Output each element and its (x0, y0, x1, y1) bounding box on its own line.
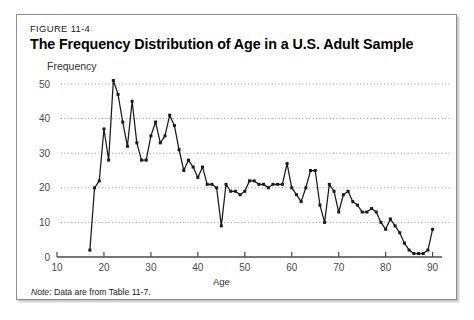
data-point-marker (281, 183, 284, 186)
data-point-marker (196, 176, 199, 179)
data-point-marker (225, 183, 228, 186)
data-point-marker (107, 159, 110, 162)
data-point-marker (379, 221, 382, 224)
data-point-marker (389, 217, 392, 220)
x-tick-label: 40 (192, 262, 204, 273)
data-point-marker (206, 183, 209, 186)
data-point-marker (267, 186, 270, 189)
data-point-marker (356, 204, 359, 207)
data-point-marker (257, 183, 260, 186)
data-point-marker (229, 190, 232, 193)
x-tick-label: 10 (51, 262, 63, 273)
data-point-marker (375, 211, 378, 214)
data-point-marker (126, 145, 129, 148)
data-point-marker (333, 190, 336, 193)
y-tick-label: 0 (44, 252, 50, 263)
data-point-marker (318, 204, 321, 207)
data-point-marker (140, 159, 143, 162)
data-point-marker (314, 169, 317, 172)
data-point-marker (286, 162, 289, 165)
y-tick-label: 50 (39, 79, 51, 90)
data-point-marker (187, 159, 190, 162)
data-point-marker (422, 252, 425, 255)
data-point-marker (328, 183, 331, 186)
x-axis-title: Age (213, 276, 230, 287)
data-point-marker (112, 79, 115, 82)
data-point-marker (173, 124, 176, 127)
y-tick-labels: 01020304050 (39, 79, 51, 263)
data-point-marker (163, 134, 166, 137)
data-point-marker (102, 127, 105, 130)
data-point-marker (351, 200, 354, 203)
data-point-marker (239, 193, 242, 196)
y-tick-label: 40 (39, 113, 51, 124)
data-point-marker (365, 211, 368, 214)
data-point-marker (253, 179, 256, 182)
data-point-marker (417, 252, 420, 255)
figure-note: Note: Data are from Table 11-7. (31, 287, 151, 297)
data-point-marker (309, 169, 312, 172)
data-point-marker (370, 207, 373, 210)
data-point-marker (135, 141, 138, 144)
x-tick-label: 90 (427, 262, 439, 273)
data-point-marker (426, 249, 429, 252)
data-point-marker (131, 100, 134, 103)
data-point-marker (408, 249, 411, 252)
data-point-marker (248, 179, 251, 182)
data-point-marker (117, 93, 120, 96)
data-point-marker (192, 166, 195, 169)
data-point-marker (304, 186, 307, 189)
note-label: Note: (31, 287, 52, 297)
data-point-marker (182, 169, 185, 172)
data-point-marker (403, 242, 406, 245)
data-point-marker (347, 190, 350, 193)
data-point-marker (398, 231, 401, 234)
y-tick-label: 20 (39, 182, 51, 193)
x-tick-label: 20 (98, 262, 110, 273)
data-point-marker (145, 159, 148, 162)
y-tick-label: 10 (39, 217, 51, 228)
figure-page: FIGURE 11-4 The Frequency Distribution o… (0, 0, 474, 320)
data-point-marker (168, 114, 171, 117)
data-point-marker (210, 183, 213, 186)
x-tick-label: 80 (380, 262, 392, 273)
data-point-marker (384, 228, 387, 231)
data-point-marker (201, 166, 204, 169)
data-point-marker (243, 190, 246, 193)
data-point-marker (121, 121, 124, 124)
data-point-marker (88, 249, 91, 252)
data-point-marker (271, 183, 274, 186)
data-point-marker (323, 221, 326, 224)
data-point-marker (431, 228, 434, 231)
data-point-marker (412, 252, 415, 255)
x-tick-labels: 102030405060708090 (51, 262, 438, 273)
data-point-marker (262, 183, 265, 186)
data-point-marker (300, 200, 303, 203)
data-point-marker (154, 121, 157, 124)
data-point-marker (215, 186, 218, 189)
data-point-markers (88, 79, 434, 255)
data-point-marker (98, 179, 101, 182)
frequency-line-chart: 01020304050 102030405060708090 (17, 15, 458, 301)
data-series-line (90, 81, 433, 254)
data-point-marker (290, 186, 293, 189)
data-point-marker (295, 193, 298, 196)
data-point-marker (234, 190, 237, 193)
data-point-marker (178, 148, 181, 151)
note-text: Data are from Table 11-7. (52, 287, 151, 297)
x-tick-label: 60 (286, 262, 298, 273)
data-point-marker (149, 134, 152, 137)
x-tick-label: 50 (239, 262, 251, 273)
plot-area: 01020304050 102030405060708090 (17, 15, 458, 301)
data-point-marker (337, 211, 340, 214)
data-point-marker (276, 183, 279, 186)
y-tick-label: 30 (39, 148, 51, 159)
figure-box: FIGURE 11-4 The Frequency Distribution o… (16, 14, 457, 300)
data-point-marker (394, 224, 397, 227)
x-tick-label: 70 (333, 262, 345, 273)
data-point-marker (361, 211, 364, 214)
data-point-marker (342, 193, 345, 196)
data-point-marker (93, 186, 96, 189)
x-tick-label: 30 (145, 262, 157, 273)
data-point-marker (159, 141, 162, 144)
